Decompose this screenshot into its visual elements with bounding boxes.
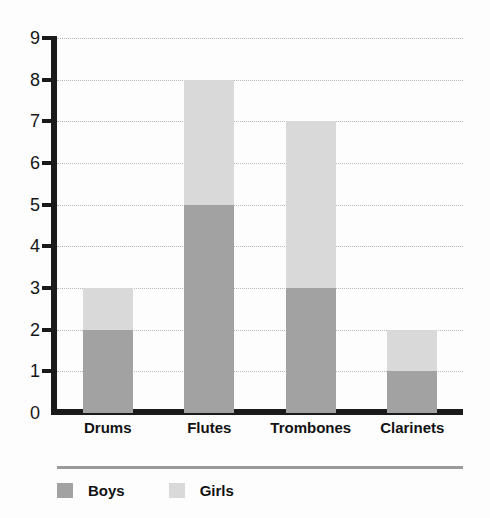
bar-segment-girls [83, 288, 133, 330]
y-axis-tick-label: 2 [6, 321, 40, 339]
y-axis-tick-labels: 0123456789 [0, 0, 40, 518]
bar-segment-girls [286, 121, 336, 288]
bar-segment-boys [387, 371, 437, 413]
legend-swatch [57, 483, 73, 498]
x-axis-tick-label: Clarinets [362, 419, 464, 436]
bar-segment-girls [184, 80, 234, 205]
x-axis-tick-label: Flutes [159, 419, 261, 436]
x-axis-tick-label: Trombones [260, 419, 362, 436]
y-axis-tick-label: 6 [6, 154, 40, 172]
y-axis-tick-label: 3 [6, 279, 40, 297]
y-axis-tick-label: 8 [6, 71, 40, 89]
legend-item: Girls [169, 482, 234, 499]
y-axis-tick-label: 1 [6, 362, 40, 380]
bar-segment-boys [184, 205, 234, 413]
y-axis-tick-label: 5 [6, 196, 40, 214]
bar-segment-boys [286, 288, 336, 413]
legend-label: Girls [200, 482, 234, 499]
bar-segment-boys [83, 330, 133, 413]
legend-divider [57, 466, 463, 469]
y-axis-tick-label: 7 [6, 112, 40, 130]
bar-stack [184, 80, 234, 413]
legend-items: BoysGirls [57, 482, 463, 499]
legend-swatch [169, 483, 185, 498]
plot-area [57, 38, 463, 413]
bar-segment-girls [387, 330, 437, 372]
legend-item: Boys [57, 482, 125, 499]
x-axis-tick-label: Drums [57, 419, 159, 436]
y-axis-tick-label: 0 [6, 404, 40, 422]
bar-stack [387, 330, 437, 413]
y-axis-tick-label: 4 [6, 237, 40, 255]
bar-stack [286, 121, 336, 413]
bar-stack [83, 288, 133, 413]
stacked-bar-chart: 0123456789 DrumsFlutesTrombonesClarinets… [0, 0, 490, 518]
legend-label: Boys [88, 482, 125, 499]
chart-legend: BoysGirls [57, 466, 463, 499]
y-axis-tick-label: 9 [6, 29, 40, 47]
